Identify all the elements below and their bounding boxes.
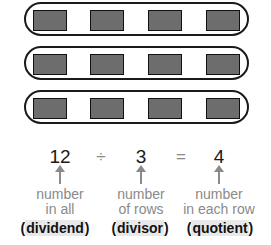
equals-sign: =	[171, 147, 191, 167]
dividend-description: number in all	[15, 187, 105, 217]
tile	[148, 54, 182, 75]
tile	[206, 98, 240, 119]
tile	[148, 10, 182, 31]
tile	[90, 98, 124, 119]
quotient-term: (quotient)	[175, 220, 265, 236]
tile	[148, 98, 182, 119]
tile	[33, 54, 67, 75]
tile	[206, 54, 240, 75]
tile	[90, 54, 124, 75]
up-arrow-icon	[218, 170, 220, 184]
divide-sign: ÷	[91, 147, 111, 167]
tile	[206, 10, 240, 31]
array-row-3	[24, 90, 249, 124]
tile	[90, 10, 124, 31]
tile	[33, 10, 67, 31]
array-row-2	[24, 46, 249, 80]
dividend-term: (dividend)	[10, 220, 100, 236]
array-row-1	[24, 2, 249, 36]
divisor-description: number of rows	[96, 187, 186, 217]
quotient-description: number in each row	[174, 187, 264, 217]
up-arrow-icon	[59, 170, 61, 184]
tile	[33, 98, 67, 119]
divisor-term: (divisor)	[95, 220, 185, 236]
up-arrow-icon	[140, 170, 142, 184]
